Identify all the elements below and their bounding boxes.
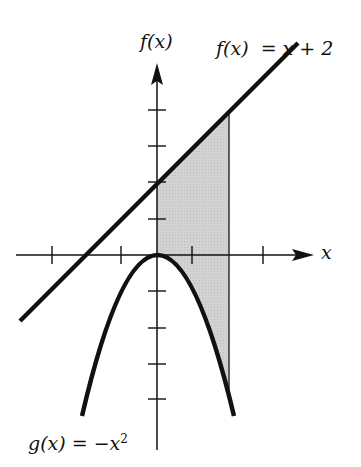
- line-f: [20, 43, 298, 321]
- curve-g-label-base: g(x) = −x: [28, 432, 120, 454]
- x-axis-label: x: [321, 241, 332, 263]
- curve-g-label-exponent: 2: [120, 432, 128, 446]
- graph-figure: f(x) x f(x) = x + 2 g(x) = −x2: [0, 0, 361, 467]
- plot-svg: [0, 0, 361, 467]
- y-axis-label: f(x): [140, 30, 173, 52]
- curve-g-label: g(x) = −x2: [28, 432, 128, 454]
- line-f-label: f(x) = x + 2: [216, 37, 333, 59]
